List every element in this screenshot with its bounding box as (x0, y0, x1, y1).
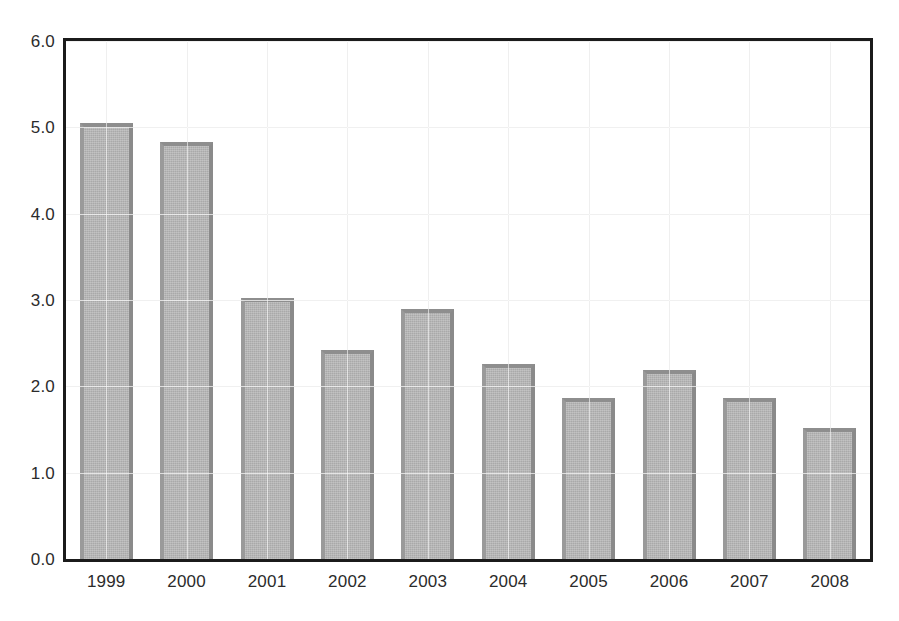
bar-texture (566, 402, 611, 559)
bar-texture (405, 313, 450, 559)
x-tick-label: 1999 (66, 572, 146, 592)
x-tick-label: 2005 (549, 572, 629, 592)
bar-2006 (643, 370, 696, 559)
y-tick-label: 0.0 (7, 551, 55, 568)
bar-texture (164, 146, 209, 559)
plot-area (63, 38, 873, 562)
x-tick-label: 2006 (629, 572, 709, 592)
y-tick-label: 2.0 (7, 378, 55, 395)
plot-inner (66, 41, 870, 559)
bar-2005 (562, 398, 615, 559)
bar-2004 (482, 364, 535, 559)
y-axis-tick-labels: 0.01.02.03.04.05.06.0 (0, 0, 55, 621)
bar-2007 (723, 398, 776, 559)
x-tick-label: 2003 (388, 572, 468, 592)
x-axis-tick-labels: 1999200020012002200320042005200620072008 (0, 572, 899, 602)
x-tick-label: 2008 (790, 572, 870, 592)
x-tick-label: 2007 (709, 572, 789, 592)
bar-texture (486, 368, 531, 559)
bar-2008 (803, 428, 856, 559)
y-tick-label: 1.0 (7, 464, 55, 481)
y-tick-label: 6.0 (7, 33, 55, 50)
y-tick-label: 3.0 (7, 292, 55, 309)
bar-2001 (241, 298, 294, 559)
bar-texture (807, 432, 852, 559)
x-tick-label: 2002 (307, 572, 387, 592)
bar-chart: 0.01.02.03.04.05.06.0 199920002001200220… (0, 0, 899, 621)
y-tick-label: 4.0 (7, 205, 55, 222)
x-tick-label: 2004 (468, 572, 548, 592)
bar-2000 (160, 142, 213, 559)
bar-2002 (321, 350, 374, 559)
bar-texture (245, 302, 290, 559)
bar-texture (727, 402, 772, 559)
bar-texture (647, 374, 692, 559)
bar-texture (325, 354, 370, 559)
bar-texture (84, 127, 129, 559)
x-tick-label: 2000 (147, 572, 227, 592)
bar-2003 (401, 309, 454, 559)
y-tick-label: 5.0 (7, 119, 55, 136)
bar-1999 (80, 123, 133, 559)
x-tick-label: 2001 (227, 572, 307, 592)
